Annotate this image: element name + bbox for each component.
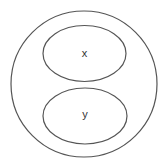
venn-diagram: x y <box>0 0 164 164</box>
set-x-label: x <box>82 47 88 59</box>
outer-set-circle <box>11 11 157 157</box>
set-y-label: y <box>82 108 88 120</box>
